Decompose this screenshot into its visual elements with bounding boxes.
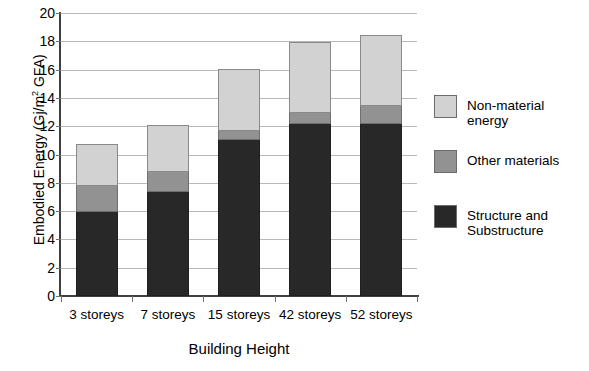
- legend-label: Other materials: [467, 150, 559, 168]
- bar-segment[interactable]: [360, 35, 402, 107]
- legend-swatch: [434, 150, 457, 173]
- bar-segment[interactable]: [147, 191, 189, 296]
- y-axis-tick-label: 12: [17, 119, 55, 133]
- x-axis-title: Building Height: [61, 340, 417, 357]
- y-axis-tick-mark: [56, 126, 61, 127]
- plot-area: [61, 13, 417, 296]
- legend-item[interactable]: Structure and Substructure: [434, 205, 548, 238]
- legend-swatch: [434, 95, 457, 118]
- y-axis-tick-mark: [56, 41, 61, 42]
- y-axis-tick-mark: [56, 98, 61, 99]
- bar-segment[interactable]: [76, 185, 118, 212]
- y-axis-tick-mark: [56, 155, 61, 156]
- y-axis-tick-mark: [56, 13, 61, 14]
- x-axis-tick-mark: [132, 296, 133, 302]
- y-axis-tick-label: 16: [17, 63, 55, 77]
- y-axis-tick-label: 18: [17, 34, 55, 48]
- x-axis-tick-mark: [203, 296, 204, 302]
- x-axis-tick-mark: [346, 296, 347, 302]
- y-axis-tick-label: 2: [17, 261, 55, 275]
- y-axis-tick-label: 8: [17, 176, 55, 190]
- bar-segment[interactable]: [76, 211, 118, 296]
- y-axis-tick-labels: 02468101214161820: [17, 13, 55, 296]
- y-axis-tick-mark: [56, 211, 61, 212]
- bar-segment[interactable]: [289, 112, 331, 124]
- legend-label: Non-material energy: [467, 95, 584, 128]
- y-axis-tick-mark: [56, 239, 61, 240]
- bar-segment[interactable]: [289, 42, 331, 113]
- y-axis-tick-label: 10: [17, 148, 55, 162]
- x-axis-tick-mark: [61, 296, 62, 302]
- bar-segment[interactable]: [147, 125, 189, 172]
- y-axis-tick-label: 20: [17, 6, 55, 20]
- legend-item[interactable]: Other materials: [434, 150, 559, 173]
- bar-segment[interactable]: [147, 171, 189, 192]
- y-axis-tick-mark: [56, 70, 61, 71]
- y-axis-tick-mark: [56, 268, 61, 269]
- y-axis-tick-label: 4: [17, 232, 55, 246]
- legend-item[interactable]: Non-material energy: [434, 95, 584, 128]
- bar-segment[interactable]: [360, 123, 402, 296]
- gridline: [61, 13, 417, 14]
- x-axis-tick-mark: [417, 296, 418, 302]
- legend-swatch: [434, 205, 457, 228]
- x-axis-tick-mark: [275, 296, 276, 302]
- bar-segment[interactable]: [76, 144, 118, 186]
- bar-segment[interactable]: [360, 105, 402, 124]
- embodied-energy-stacked-bar-chart: Embodied Energy (Gj/m2 GFA) 024681012141…: [0, 0, 589, 371]
- y-axis-tick-label: 0: [17, 289, 55, 303]
- legend-label: Structure and Substructure: [467, 205, 548, 238]
- y-axis-tick-label: 6: [17, 204, 55, 218]
- bar-segment[interactable]: [289, 123, 331, 296]
- bar-segment[interactable]: [218, 130, 260, 140]
- x-axis-tick-label: 52 storeys: [331, 307, 431, 322]
- bar-segment[interactable]: [218, 69, 260, 132]
- bar-segment[interactable]: [218, 139, 260, 296]
- y-axis-tick-mark: [56, 183, 61, 184]
- y-axis-tick-label: 14: [17, 91, 55, 105]
